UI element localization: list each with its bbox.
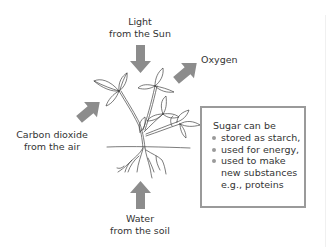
sugar-use-text-example: e.g., proteins	[221, 179, 300, 191]
light-label-line-1: Light	[95, 16, 185, 28]
sugar-uses-list: stored as starch, used for energy, used …	[211, 132, 300, 191]
bullet-icon	[212, 159, 216, 163]
carbon-dioxide-label-line-2: from the air	[2, 141, 102, 153]
sugar-use-item: stored as starch,	[211, 132, 300, 144]
water-label: Water from the soil	[95, 213, 185, 237]
water-arrow-icon	[130, 181, 151, 209]
sugar-use-text: stored as starch,	[221, 132, 300, 144]
sugar-use-item: used for energy,	[211, 144, 300, 156]
carbon-dioxide-arrow-icon	[73, 94, 107, 127]
bullet-icon	[212, 136, 216, 140]
water-label-line-1: Water	[95, 213, 185, 225]
ground-line	[107, 147, 190, 148]
sugar-box-title: Sugar can be	[213, 120, 276, 132]
light-label-line-2: from the Sun	[95, 28, 185, 40]
oxygen-label-line-1: Oxygen	[201, 54, 238, 66]
bullet-icon	[212, 148, 216, 152]
sugar-use-text: used to make	[221, 155, 300, 167]
water-label-line-2: from the soil	[95, 225, 185, 237]
oxygen-label: Oxygen	[201, 54, 238, 66]
light-arrow-icon	[130, 45, 151, 73]
carbon-dioxide-label: Carbon dioxide from the air	[2, 129, 102, 153]
sugar-use-text: used for energy,	[221, 144, 300, 156]
carbon-dioxide-label-line-1: Carbon dioxide	[2, 129, 102, 141]
sugar-uses-box: Sugar can be stored as starch, used for …	[200, 106, 306, 208]
sugar-use-text-continued: new substances	[221, 167, 300, 179]
page-edge-divider	[325, 15, 326, 247]
oxygen-arrow-icon	[170, 55, 204, 88]
sugar-use-item: used to make new substances e.g., protei…	[211, 155, 300, 190]
plant-illustration	[94, 68, 200, 178]
light-label: Light from the Sun	[95, 16, 185, 40]
